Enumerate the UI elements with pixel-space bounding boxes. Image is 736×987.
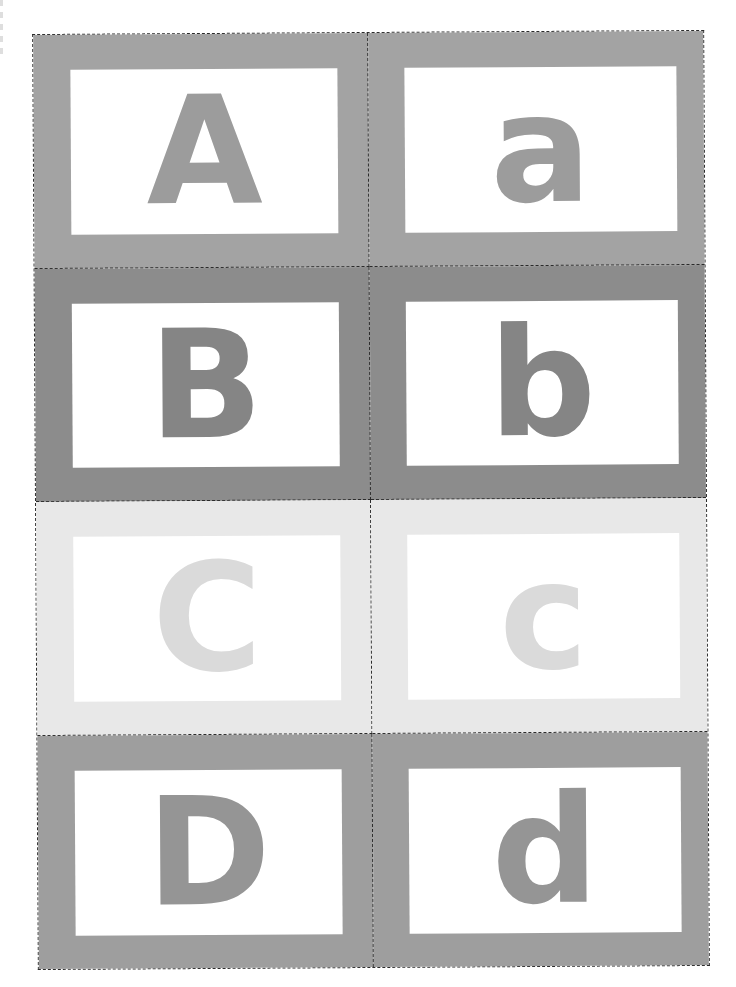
card-face: A	[70, 68, 338, 234]
card-uppercase-a: A	[33, 33, 369, 269]
card-lowercase-a: a	[368, 31, 704, 267]
flashcard-sheet: A a B b C c D d	[32, 30, 710, 970]
card-lowercase-d: d	[372, 731, 708, 967]
letter-glyph: C	[152, 543, 263, 694]
card-face: c	[407, 533, 680, 699]
card-face: b	[406, 300, 679, 466]
card-lowercase-b: b	[370, 264, 706, 500]
card-face: B	[72, 302, 340, 468]
letter-glyph: c	[499, 541, 589, 692]
card-uppercase-b: B	[35, 267, 371, 503]
card-face: a	[404, 66, 677, 232]
letter-glyph: a	[490, 74, 592, 225]
letter-glyph: d	[491, 775, 599, 926]
card-face: d	[409, 767, 682, 934]
card-face: C	[73, 535, 341, 701]
card-uppercase-d: D	[37, 733, 373, 969]
letter-glyph: B	[148, 309, 263, 460]
letter-glyph: b	[488, 307, 596, 458]
letter-glyph: D	[146, 777, 271, 928]
scan-edge-mark	[0, 0, 3, 60]
card-lowercase-c: c	[371, 498, 707, 734]
letter-glyph: A	[146, 76, 263, 227]
card-uppercase-c: C	[36, 500, 372, 736]
card-face: D	[75, 769, 343, 936]
